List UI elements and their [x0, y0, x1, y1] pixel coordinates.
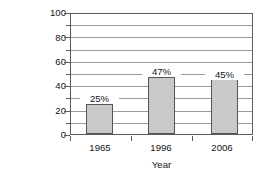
bar-1996[interactable] [148, 77, 175, 134]
x-tick-label-1996: 1996 [136, 143, 186, 153]
y-tick-label-60: 60 [30, 57, 66, 67]
x-tick-label-2006: 2006 [197, 143, 247, 153]
gridline-70 [71, 50, 252, 51]
bar-value-label-1965: 25% [80, 94, 119, 104]
y-tick-label-0: 0 [30, 130, 66, 140]
gridline-60 [71, 62, 252, 63]
x-tick-label-1965: 1965 [75, 143, 125, 153]
y-tick-label-100: 100 [30, 8, 66, 18]
x-tick-left-edge [70, 136, 71, 141]
x-tick-boundary-2 [192, 136, 193, 141]
y-tick-label-80: 80 [30, 33, 66, 43]
gridline-90 [71, 25, 252, 26]
bar-value-label-1996: 47% [142, 67, 181, 77]
x-axis-title: Year [70, 160, 253, 170]
gridline-80 [71, 37, 252, 38]
x-tick-boundary-1 [131, 136, 132, 141]
y-tick-label-40: 40 [30, 81, 66, 91]
x-tick-right-edge [252, 136, 253, 141]
bar-value-label-2006: 45% [205, 70, 244, 80]
bar-2006[interactable] [211, 79, 238, 134]
bar-1965[interactable] [86, 104, 113, 135]
plot-area: 25% 47% 45% [70, 13, 253, 135]
y-tick-label-20: 20 [30, 106, 66, 116]
bar-chart: Percentage of black families headed by a… [0, 0, 273, 180]
y-axis-tick-labels: 100 80 60 40 20 0 [26, 0, 66, 180]
